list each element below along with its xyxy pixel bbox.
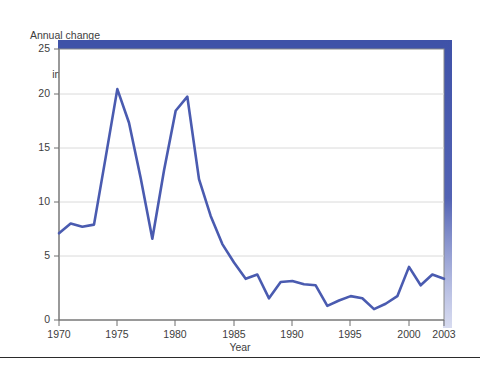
x-tick-label-1975: 1975 (95, 328, 139, 340)
y-tick-label-20: 20 (24, 87, 50, 99)
y-tick-label-0: 0 (24, 313, 50, 325)
x-tick-label-1995: 1995 (328, 328, 372, 340)
x-axis-title: Year (0, 341, 480, 354)
y-tick-label-15: 15 (24, 141, 50, 153)
y-axis (54, 49, 59, 320)
y-tick-label-5: 5 (24, 249, 50, 261)
x-tick-label-1990: 1990 (270, 328, 314, 340)
x-tick-label-1970: 1970 (37, 328, 81, 340)
x-tick-label-1985: 1985 (212, 328, 256, 340)
plot-area (0, 0, 480, 365)
y-tick-label-25: 25 (24, 42, 50, 54)
footer-divider (0, 357, 480, 358)
y-tick-label-10: 10 (24, 195, 50, 207)
x-axis (59, 320, 444, 326)
x-tick-label-1980: 1980 (153, 328, 197, 340)
chart-figure: Annual change in CPI (%) (0, 0, 480, 365)
x-tick-label-2003: 2003 (422, 328, 466, 340)
